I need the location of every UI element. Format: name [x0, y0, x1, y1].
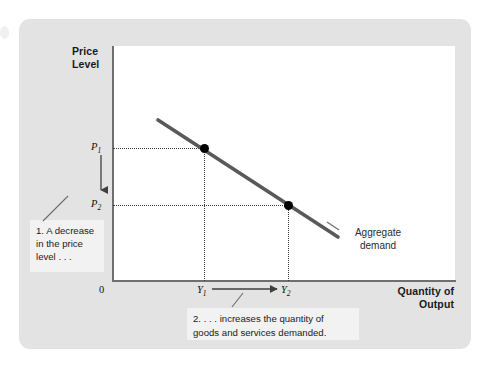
callout-quantity-increase: 2. . . . increases the quantity of goods… — [187, 308, 359, 340]
aggregate-demand-label-line1: Aggregate — [340, 227, 416, 240]
x-tick-y1-sub: 1 — [203, 289, 207, 298]
y-axis-title-line2: Level — [72, 58, 110, 71]
y-tick-p1-sub: 1 — [97, 146, 101, 155]
callout-2-line1: 2. . . . increases the quantity of — [193, 312, 354, 326]
guide-line-p2 — [113, 205, 289, 206]
y-axis-title-line1: Price — [72, 45, 110, 58]
data-point-1 — [200, 144, 209, 153]
aggregate-demand-label: Aggregate demand — [340, 227, 416, 252]
origin-label: 0 — [99, 284, 104, 295]
edge-artifact — [0, 26, 9, 39]
aggregate-demand-label-line2: demand — [340, 240, 416, 253]
guide-line-p1 — [113, 148, 205, 149]
y-tick-p2-sub: 2 — [97, 203, 101, 212]
x-axis-title-line2: Output — [360, 298, 454, 311]
callout-1-line3: level . . . — [36, 250, 99, 263]
figure-root: Price Level Quantity of Output 0 P1 P2 Y… — [0, 0, 491, 366]
y-tick-label-p2: P2 — [91, 198, 101, 212]
y-tick-label-p1: P1 — [91, 141, 101, 155]
y-axis-line — [112, 46, 114, 282]
callout-1-line1: 1. A decrease — [36, 224, 99, 237]
x-tick-label-y1: Y1 — [197, 284, 207, 298]
data-point-2 — [284, 201, 293, 210]
x-tick-y2-sub: 2 — [287, 289, 291, 298]
x-axis-title-line1: Quantity of — [360, 285, 454, 298]
y-axis-title: Price Level — [72, 45, 110, 71]
callout-2-line2: goods and services demanded. — [193, 326, 354, 340]
x-axis-title: Quantity of Output — [360, 285, 454, 311]
callout-1-line2: in the price — [36, 237, 99, 250]
callout-price-decrease: 1. A decrease in the price level . . . — [30, 220, 104, 272]
guide-line-y2 — [288, 205, 289, 281]
guide-line-y1 — [204, 148, 205, 281]
x-tick-label-y2: Y2 — [281, 284, 291, 298]
x-axis-line — [112, 280, 456, 282]
